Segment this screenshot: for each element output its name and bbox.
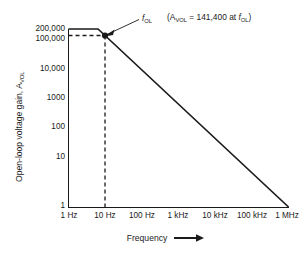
- x-tick-label-10hz: 10 Hz: [94, 211, 115, 220]
- x-tick-label-100khz: 100 kHz: [237, 211, 267, 220]
- x-tick-label-100hz: 100 Hz: [129, 211, 155, 220]
- right-arrow-icon: [174, 234, 204, 241]
- y-axis-title: Open-loop voltage gain, AVOL: [14, 71, 25, 182]
- y-tick-label-200000: 200,000: [35, 24, 65, 33]
- open-loop-gain-curve: [69, 29, 289, 207]
- y-tick-label-100: 100: [51, 122, 65, 131]
- x-tick-label-1khz: 1 kHz: [168, 211, 189, 220]
- avol-note-middle: = 141,400 at: [187, 12, 238, 22]
- y-tick-label-1: 1: [60, 201, 65, 210]
- axis-frame: [69, 29, 289, 208]
- open-loop-gain-chart: fOL (AVOL = 141,400 at fOL) 200,000 100,…: [0, 0, 304, 256]
- avol-note: (AVOL = 141,400 at fOL): [167, 12, 252, 23]
- fol-callout-label-sub: OL: [144, 18, 153, 24]
- x-axis-title: Frequency: [127, 233, 168, 243]
- y-axis-title-sub: VOL: [19, 71, 25, 83]
- x-tick-label-1hz: 1 Hz: [61, 211, 78, 220]
- fol-callout-label: fOL: [142, 13, 153, 24]
- y-tick-label-10000: 10,000: [40, 64, 65, 73]
- x-tick-label-1mhz: 1 MHz: [275, 211, 299, 220]
- x-tick-label-10khz: 10 kHz: [202, 211, 227, 220]
- y-tick-label-1000: 1000: [47, 93, 66, 102]
- y-axis-title-main: Open-loop voltage gain, A: [14, 83, 24, 182]
- y-tick-label-100000: 100,000: [35, 34, 65, 43]
- bode-plot-figure: fOL (AVOL = 141,400 at fOL) 200,000 100,…: [0, 0, 304, 256]
- y-tick-label-10: 10: [56, 152, 66, 161]
- avol-note-close: ): [249, 12, 252, 22]
- avol-note-sub1: VOL: [175, 17, 187, 23]
